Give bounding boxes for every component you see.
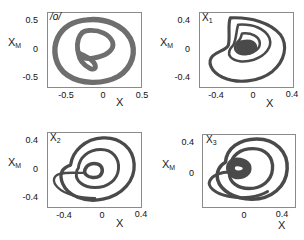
y-tick-x3-1: 0 (160, 168, 194, 178)
panel-x1: XM 0.4 0 -0.4 X1 -0.4 0 0.4 X (152, 0, 304, 120)
curve-inner-tail-o (78, 53, 95, 69)
y-tick-o-1: 0 (4, 44, 38, 54)
x-axis-label-o: X (116, 96, 123, 108)
plot-frame-x1 (199, 12, 294, 88)
x-axis-label-x3: X (278, 219, 285, 231)
x-tick-x3-0: 0 (228, 210, 260, 220)
panel-x3: XM 0.4 0 X3 0 0.4 X (152, 120, 304, 240)
curve-center-blob-x3 (230, 162, 247, 175)
x-tick-x1-2: 0.4 (276, 89, 304, 99)
curve-outer-spiral-x2 (61, 138, 134, 200)
y-tick-x1-1: 0 (156, 44, 190, 54)
panel-label-x2: X2 (50, 133, 61, 144)
panel-label-x3: X3 (206, 135, 217, 146)
y-tick-o-0: 0.5 (4, 15, 38, 25)
figure-phase-portraits: XM 0.5 0 -0.5 /o/ -0.5 0 0.5 X XM 0.4 0 … (0, 0, 304, 240)
panel-label-x1: X1 (202, 13, 213, 24)
x-tick-x2-0: -0.4 (48, 210, 80, 220)
y-tick-o-2: -0.5 (4, 72, 38, 82)
x-tick-x3-1: 0.4 (266, 209, 298, 219)
panel-o: XM 0.5 0 -0.5 /o/ -0.5 0 0.5 X (0, 0, 152, 120)
x-axis-label-x2: X (116, 217, 123, 229)
plot-curves-x2 (48, 133, 141, 207)
y-tick-x2-2: -0.4 (4, 192, 38, 202)
y-tick-x1-0: 0.4 (156, 15, 190, 25)
x-tick-o-0: -0.5 (50, 90, 82, 100)
plot-curves-x1 (200, 13, 293, 87)
panel-x2: XM 0.4 0 -0.4 X2 -0.4 0 0.4 X (0, 120, 152, 240)
plot-frame-o (47, 12, 142, 88)
y-tick-x2-1: 0 (4, 164, 38, 174)
panel-label-o: /o/ (50, 12, 61, 22)
x-tick-x1-1: 0 (237, 90, 269, 100)
curve-inner-spiral-x2 (85, 163, 103, 177)
plot-frame-x2 (47, 132, 142, 208)
x-tick-x1-0: -0.4 (200, 90, 232, 100)
curve-middle-spiral-x2 (76, 150, 118, 188)
y-tick-x3-0: 0.4 (160, 137, 194, 147)
curve-center-blob-x1 (240, 44, 253, 51)
y-tick-x2-0: 0.4 (4, 135, 38, 145)
x-tick-o-1: 0 (87, 90, 119, 100)
y-tick-x1-2: -0.4 (156, 72, 190, 82)
plot-curves-o (48, 13, 141, 87)
x-tick-x2-1: 0 (86, 210, 118, 220)
x-axis-label-x1: X (266, 97, 273, 109)
